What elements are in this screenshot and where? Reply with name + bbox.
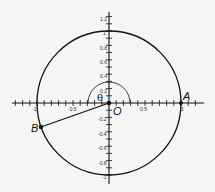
y-tick-label: 1 <box>103 30 106 36</box>
x-tick-label: -1 <box>32 106 37 112</box>
origin-label: O <box>113 105 122 117</box>
y-tick-label: 0.4 <box>100 73 107 79</box>
point-a-label: A <box>182 90 190 102</box>
y-tick-label: 1.2 <box>100 16 107 22</box>
y-tick-label: 0.2 <box>100 88 107 94</box>
y-tick-label: 0.8 <box>100 45 107 51</box>
x-tick-label: -0.5 <box>68 106 77 112</box>
y-tick-label: 0.6 <box>100 59 107 65</box>
point-b-label: B <box>31 122 38 134</box>
y-tick-label: -0.2 <box>98 116 107 122</box>
y-tick-label: -0.6 <box>98 145 107 151</box>
x-tick-label: 0.5 <box>140 106 147 112</box>
y-tick-label: -1 <box>102 174 107 180</box>
origin-point <box>107 101 112 106</box>
axes <box>12 12 204 184</box>
x-tick-label: 1 <box>181 106 184 112</box>
point-b <box>39 125 43 129</box>
y-tick-label: -0.4 <box>98 131 107 137</box>
y-tick-label: -0.8 <box>98 160 107 166</box>
unit-circle-diagram: O A B θ -1 -0.5 0.5 1 1.2 1 0.8 0.6 0.4 … <box>0 0 215 192</box>
